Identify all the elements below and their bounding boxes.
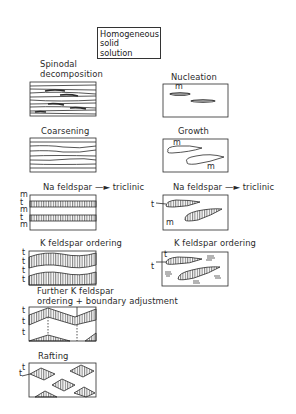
diagram-graphics <box>0 0 296 414</box>
nucleation-box <box>163 84 228 117</box>
na-feldspar-right-box <box>156 195 228 230</box>
growth-box <box>163 139 228 172</box>
spinodal-box <box>30 82 96 116</box>
rafting-box <box>22 363 96 397</box>
k-feldspar-ordering-right-box <box>156 252 228 286</box>
na-feldspar-left-box <box>30 195 96 230</box>
further-k-ordering-box <box>29 307 96 341</box>
k-feldspar-ordering-left-box <box>29 251 96 285</box>
coarsening-box <box>30 138 96 172</box>
